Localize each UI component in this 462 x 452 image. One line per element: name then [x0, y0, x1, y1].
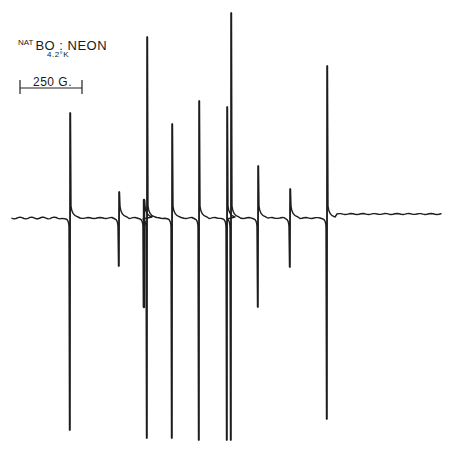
spectrum-plot [0, 0, 462, 452]
spectrum-trace [12, 13, 441, 440]
scale-bar [20, 80, 82, 94]
